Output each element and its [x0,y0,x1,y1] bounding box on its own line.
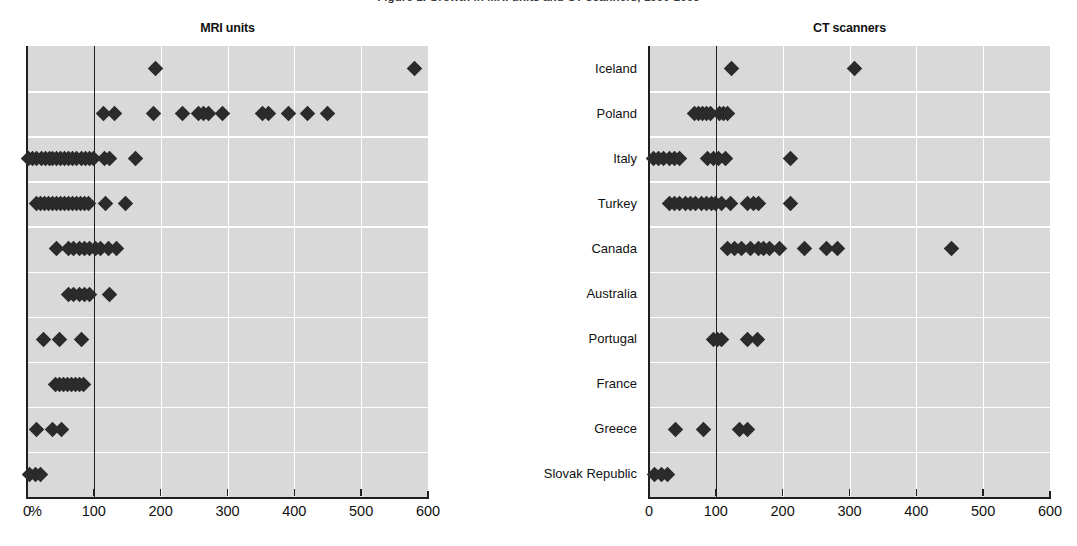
panel-title-ct: CT scanners [649,21,1050,35]
data-point [319,106,335,122]
x-axis-tick-600 [427,491,429,498]
x-axis-tick-label-200: 200 [149,503,173,519]
x-axis-tick-400 [294,489,295,496]
gridline-horizontal [649,91,1050,93]
data-point [35,331,51,347]
gridline-horizontal [27,226,428,228]
supertitle-strip: Figure 1. Growth in MRI units and CT sca… [0,0,1077,11]
x-axis-tick-label-300: 300 [837,503,861,519]
category-label-turkey: Turkey [433,196,637,212]
x-axis-tick-label-0: 0 [645,503,653,519]
category-label-france: France [433,376,637,392]
x-axis-labels-mri: % 0100200300400500600 [27,503,428,525]
data-point [174,106,190,122]
x-axis-tick-500 [360,489,361,496]
data-point [723,61,739,77]
data-point [107,106,123,122]
gridline-horizontal [649,452,1050,454]
x-axis-tick-400 [916,489,917,496]
supertitle: Figure 1. Growth in MRI units and CT sca… [0,0,1077,3]
data-point [796,241,812,257]
gridline-horizontal [649,181,1050,183]
category-label-portugal: Portugal [433,331,637,347]
gridline-horizontal [649,407,1050,409]
gridline-horizontal [649,317,1050,319]
category-label-poland: Poland [433,106,637,122]
data-point [783,151,799,167]
data-point [830,241,846,257]
gridline-horizontal [27,317,428,319]
x-axis-tick-label-500: 500 [349,503,373,519]
data-point [54,422,70,438]
data-point [668,422,684,438]
x-axis-line-mri [26,497,429,499]
panel-title-mri: MRI units [27,21,428,35]
category-label-greece: Greece [433,421,637,437]
data-point [772,241,788,257]
x-axis-tick-200 [160,489,161,496]
x-axis-tick-label-400: 400 [282,503,306,519]
x-axis-tick-300 [849,489,850,496]
gridline-horizontal [27,407,428,409]
category-axis-labels: IcelandPolandItalyTurkeyCanadaAustraliaP… [433,46,643,497]
data-point [51,331,67,347]
x-axis-tick-label-600: 600 [416,503,440,519]
x-axis-tick-label-600: 600 [1038,503,1062,519]
x-axis-tick-300 [227,489,228,496]
data-point [696,422,712,438]
x-axis-tick-label-100: 100 [82,503,106,519]
data-point [102,286,118,302]
x-axis-tick-label-100: 100 [704,503,728,519]
data-point [98,196,114,212]
x-axis-tick-600 [1049,491,1051,498]
gridline-horizontal [27,272,428,274]
x-axis-tick-100 [93,489,94,496]
x-axis-tick-label-200: 200 [771,503,795,519]
x-axis-line-ct [648,497,1051,499]
gridline-horizontal [649,272,1050,274]
gridline-horizontal [649,226,1050,228]
data-point [74,331,90,347]
plot-area-mri-units [27,46,428,497]
gridline-horizontal [27,91,428,93]
category-label-slovak-republic: Slovak Republic [433,466,637,482]
data-point [943,241,959,257]
x-axis-labels-ct: % 0100200300400500600 [649,503,1050,525]
plot-area-ct-scanners [649,46,1050,497]
data-point [407,61,423,77]
x-axis-tick-500 [982,489,983,496]
y-axis-spine [648,46,650,497]
gridline-horizontal [649,136,1050,138]
category-label-iceland: Iceland [433,61,637,77]
data-point [29,422,45,438]
x-axis-tick-0 [648,491,650,498]
y-axis-spine [26,46,28,497]
x-axis-tick-label-500: 500 [971,503,995,519]
data-point [118,196,134,212]
gridline-horizontal [27,136,428,138]
x-axis-tick-label-0: 0 [23,503,31,519]
category-label-italy: Italy [433,151,637,167]
data-point [749,331,765,347]
x-axis-tick-label-300: 300 [215,503,239,519]
x-axis-tick-0 [26,491,28,498]
category-label-canada: Canada [433,241,637,257]
x-axis-tick-200 [782,489,783,496]
data-point [128,151,144,167]
category-label-australia: Australia [433,286,637,302]
gridline-horizontal [27,452,428,454]
data-point [146,106,162,122]
gridline-horizontal [27,181,428,183]
gridline-horizontal [27,362,428,364]
data-point [299,106,315,122]
data-point [783,196,799,212]
x-axis-tick-100 [715,489,716,496]
gridline-horizontal [649,362,1050,364]
x-axis-tick-label-400: 400 [904,503,928,519]
